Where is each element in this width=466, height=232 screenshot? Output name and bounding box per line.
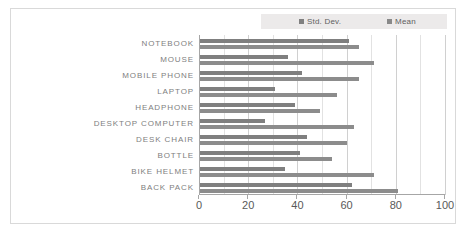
bar-mean-headphone[interactable] [199,109,320,113]
legend-item-mean[interactable]: Mean [387,17,416,26]
bar-std-dev-bottle[interactable] [199,151,300,155]
bar-mean-desk-chair[interactable] [199,141,347,145]
bar-std-dev-mobile-phone[interactable] [199,71,302,75]
bar-mean-notebook[interactable] [199,45,359,49]
bar-std-dev-bike-helmet[interactable] [199,167,285,171]
x-axis-line [199,194,445,195]
y-axis-label-mouse: MOUSE [160,55,194,64]
x-tick-label-80: 80 [390,199,402,211]
x-tickmark-60 [346,195,347,199]
x-tickmark-100 [444,195,445,199]
x-tickmark-80 [395,195,396,199]
y-axis-label-desktop-computer: DESKTOP COMPUTER [94,119,194,128]
bar-mean-mobile-phone[interactable] [199,77,359,81]
bar-std-dev-mouse[interactable] [199,55,288,59]
y-axis-label-laptop: LAPTOP [157,87,194,96]
bar-std-dev-back-pack[interactable] [199,183,352,187]
x-tick-label-40: 40 [291,199,303,211]
plot-area [199,35,445,195]
x-tickmark-20 [247,195,248,199]
bar-series-container [199,35,445,195]
legend-swatch-mean [387,19,392,24]
x-tickmark-40 [296,195,297,199]
bar-mean-bottle[interactable] [199,157,332,161]
y-axis-label-mobile-phone: MOBILE PHONE [122,71,194,80]
bar-mean-desktop-computer[interactable] [199,125,354,129]
x-axis-tick-labels: 020406080100 [199,199,445,217]
bar-mean-bike-helmet[interactable] [199,173,374,177]
legend-item-std-dev[interactable]: Std. Dev. [299,17,341,26]
x-tick-label-0: 0 [196,199,202,211]
bar-std-dev-notebook[interactable] [199,39,349,43]
y-axis-category-labels: NOTEBOOKMOUSEMOBILE PHONELAPTOPHEADPHONE… [51,35,194,195]
bar-mean-laptop[interactable] [199,93,337,97]
y-axis-label-bike-helmet: BIKE HELMET [131,167,194,176]
legend-label-std-dev: Std. Dev. [307,17,341,26]
legend-label-mean: Mean [395,17,416,26]
y-axis-label-notebook: NOTEBOOK [141,39,194,48]
y-axis-label-bottle: BOTTLE [157,151,194,160]
bar-std-dev-laptop[interactable] [199,87,275,91]
y-axis-label-desk-chair: DESK CHAIR [136,135,194,144]
x-tick-label-100: 100 [436,199,454,211]
y-axis-label-back-pack: BACK PACK [141,183,194,192]
y-axis-label-headphone: HEADPHONE [135,103,194,112]
chart-frame: Std. Dev. Mean NOTEBOOKMOUSEMOBILE PHONE… [10,8,456,224]
bar-std-dev-desktop-computer[interactable] [199,119,265,123]
bar-mean-mouse[interactable] [199,61,374,65]
x-tick-label-20: 20 [242,199,254,211]
legend-swatch-std-dev [299,19,304,24]
x-tick-label-60: 60 [340,199,352,211]
bar-std-dev-headphone[interactable] [199,103,295,107]
x-tickmark-0 [198,195,199,199]
chart-legend: Std. Dev. Mean [261,14,447,29]
bar-mean-back-pack[interactable] [199,189,398,193]
bar-std-dev-desk-chair[interactable] [199,135,307,139]
gridline-major [445,35,446,195]
y-axis-line [199,35,200,195]
